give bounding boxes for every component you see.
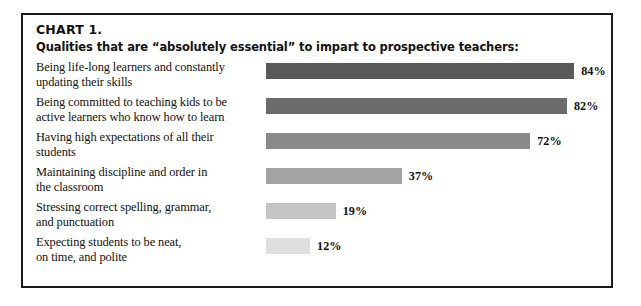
chart-row: Expecting students to be neat, on time, …	[23, 235, 611, 270]
bar-track: 12%	[266, 238, 611, 254]
chart-rows: Being life-long learners and constantly …	[23, 60, 611, 270]
chart-row: Having high expectations of all their st…	[23, 130, 611, 165]
chart-row: Being life-long learners and constantly …	[23, 60, 611, 95]
bar-value-label: 72%	[537, 133, 561, 149]
bar-track: 37%	[266, 168, 611, 184]
bar-label: Being committed to teaching kids to be a…	[36, 95, 264, 124]
bar-track: 82%	[266, 98, 611, 114]
bar-label-line1: Stressing correct spelling, grammar,	[36, 200, 211, 214]
bar-track: 84%	[266, 63, 611, 79]
bar-label-line2: students	[36, 145, 264, 160]
chart-subtitle: Qualities that are “absolutely essential…	[36, 40, 519, 54]
chart-row: Maintaining discipline and order in the …	[23, 165, 611, 200]
bar-value-label: 19%	[343, 203, 367, 219]
chart-row: Stressing correct spelling, grammar, and…	[23, 200, 611, 235]
bar-label-line2: the classroom	[36, 180, 264, 195]
bar-fill	[266, 63, 574, 79]
chart-body: CHART 1. Qualities that are “absolutely …	[23, 15, 611, 286]
bar-label-line2: and punctuation	[36, 215, 264, 230]
bar-label-line1: Having high expectations of all their	[36, 130, 214, 144]
bar-value-label: 12%	[317, 238, 341, 254]
bar-track: 19%	[266, 203, 611, 219]
bar-label-line2: active learners who know how to learn	[36, 110, 264, 125]
bar-value-label: 84%	[581, 63, 605, 79]
chart-frame: CHART 1. Qualities that are “absolutely …	[21, 13, 613, 288]
bar-label-line2: updating their skills	[36, 75, 264, 90]
bar-fill	[266, 133, 530, 149]
bar-label-line1: Expecting students to be neat,	[36, 235, 181, 249]
bar-label-line2: on time, and polite	[36, 250, 264, 265]
bar-track: 72%	[266, 133, 611, 149]
bar-label: Expecting students to be neat, on time, …	[36, 235, 264, 264]
bar-value-label: 37%	[409, 168, 433, 184]
bar-label-line1: Being committed to teaching kids to be	[36, 95, 227, 109]
bar-label: Having high expectations of all their st…	[36, 130, 264, 159]
bar-label: Being life-long learners and constantly …	[36, 60, 264, 89]
bar-fill	[266, 168, 402, 184]
bar-label-line1: Being life-long learners and constantly	[36, 60, 225, 74]
bar-fill	[266, 238, 310, 254]
bar-value-label: 82%	[574, 98, 598, 114]
bar-fill	[266, 98, 567, 114]
bar-label-line1: Maintaining discipline and order in	[36, 165, 207, 179]
chart-row: Being committed to teaching kids to be a…	[23, 95, 611, 130]
bar-label: Maintaining discipline and order in the …	[36, 165, 264, 194]
chart-number: CHART 1.	[36, 22, 102, 37]
bar-label: Stressing correct spelling, grammar, and…	[36, 200, 264, 229]
bar-fill	[266, 203, 336, 219]
